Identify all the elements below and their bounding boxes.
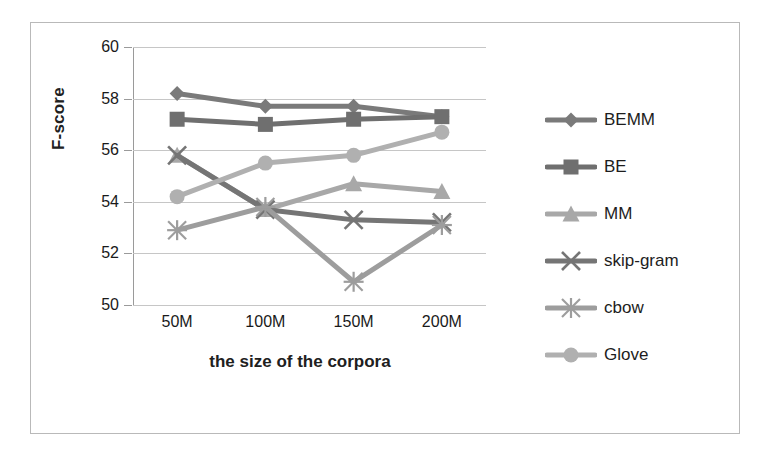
data-point-circle	[346, 148, 361, 163]
x-axis-tick-label: 100M	[245, 313, 285, 331]
y-axis-tick	[124, 202, 132, 203]
y-axis-tick	[124, 150, 132, 151]
data-point-asterisk	[167, 220, 187, 240]
legend-item-label: Glove	[604, 345, 648, 365]
y-axis-tick-label: 50	[101, 296, 119, 314]
legend-item-be[interactable]: BE	[545, 143, 730, 190]
data-point-circle	[564, 347, 579, 362]
x-axis-tick-label: 150M	[334, 313, 374, 331]
series-glove	[170, 125, 450, 205]
legend-item-cbow[interactable]: cbow	[545, 284, 730, 331]
y-axis-tick	[124, 253, 132, 254]
data-point-diamond	[564, 112, 579, 127]
data-point-square	[346, 112, 361, 127]
legend-item-label: skip-gram	[604, 251, 679, 271]
legend-marker-circle-icon	[545, 344, 597, 366]
y-axis-tick-label: 56	[101, 141, 119, 159]
x-axis-tick-label: 50M	[162, 313, 193, 331]
data-point-circle	[258, 156, 273, 171]
series-layer	[133, 47, 486, 305]
legend-item-label: cbow	[604, 298, 644, 318]
data-point-asterisk	[432, 215, 452, 235]
y-axis-tick-label: 58	[101, 90, 119, 108]
legend: BEMMBEMMskip-gramcbowGlove	[545, 96, 730, 378]
data-point-square	[434, 109, 449, 124]
y-axis-tick-label: 60	[101, 38, 119, 56]
legend-item-label: MM	[604, 204, 632, 224]
chart-screenshot: F-score the size of the corpora 50525456…	[0, 0, 773, 464]
y-axis-tick	[124, 99, 132, 100]
data-point-circle	[170, 189, 185, 204]
data-point-square	[564, 159, 579, 174]
data-point-circle	[434, 125, 449, 140]
data-point-asterisk	[561, 298, 581, 318]
series-cbow	[167, 197, 452, 292]
data-point-diamond	[170, 86, 185, 101]
x-axis-title: the size of the corpora	[125, 352, 475, 372]
data-point-asterisk	[344, 272, 364, 292]
legend-item-mm[interactable]: MM	[545, 190, 730, 237]
legend-marker-diamond-icon	[545, 109, 597, 131]
plot-area: 505254565860 50M100M150M200M	[133, 47, 486, 305]
legend-item-glove[interactable]: Glove	[545, 331, 730, 378]
series-line	[177, 117, 442, 125]
y-axis-tick-label: 52	[101, 244, 119, 262]
series-line	[177, 207, 442, 282]
legend-item-label: BEMM	[604, 110, 655, 130]
data-point-square	[258, 117, 273, 132]
data-point-square	[170, 112, 185, 127]
legend-marker-triangle-icon	[545, 203, 597, 225]
legend-item-skip-gram[interactable]: skip-gram	[545, 237, 730, 284]
legend-marker-square-icon	[545, 156, 597, 178]
y-axis-tick	[124, 305, 132, 306]
y-axis-tick	[124, 47, 132, 48]
series-line	[177, 93, 442, 116]
data-point-diamond	[258, 99, 273, 114]
x-axis-tick-label: 200M	[422, 313, 462, 331]
data-point-asterisk	[255, 197, 275, 217]
legend-item-bemm[interactable]: BEMM	[545, 96, 730, 143]
y-axis-tick-label: 54	[101, 193, 119, 211]
data-point-diamond	[346, 99, 361, 114]
legend-marker-asterisk-icon	[545, 297, 597, 319]
y-axis-title: F-score	[49, 30, 73, 150]
legend-marker-x-icon	[545, 250, 597, 272]
gridline	[133, 305, 486, 306]
legend-item-label: BE	[604, 157, 627, 177]
